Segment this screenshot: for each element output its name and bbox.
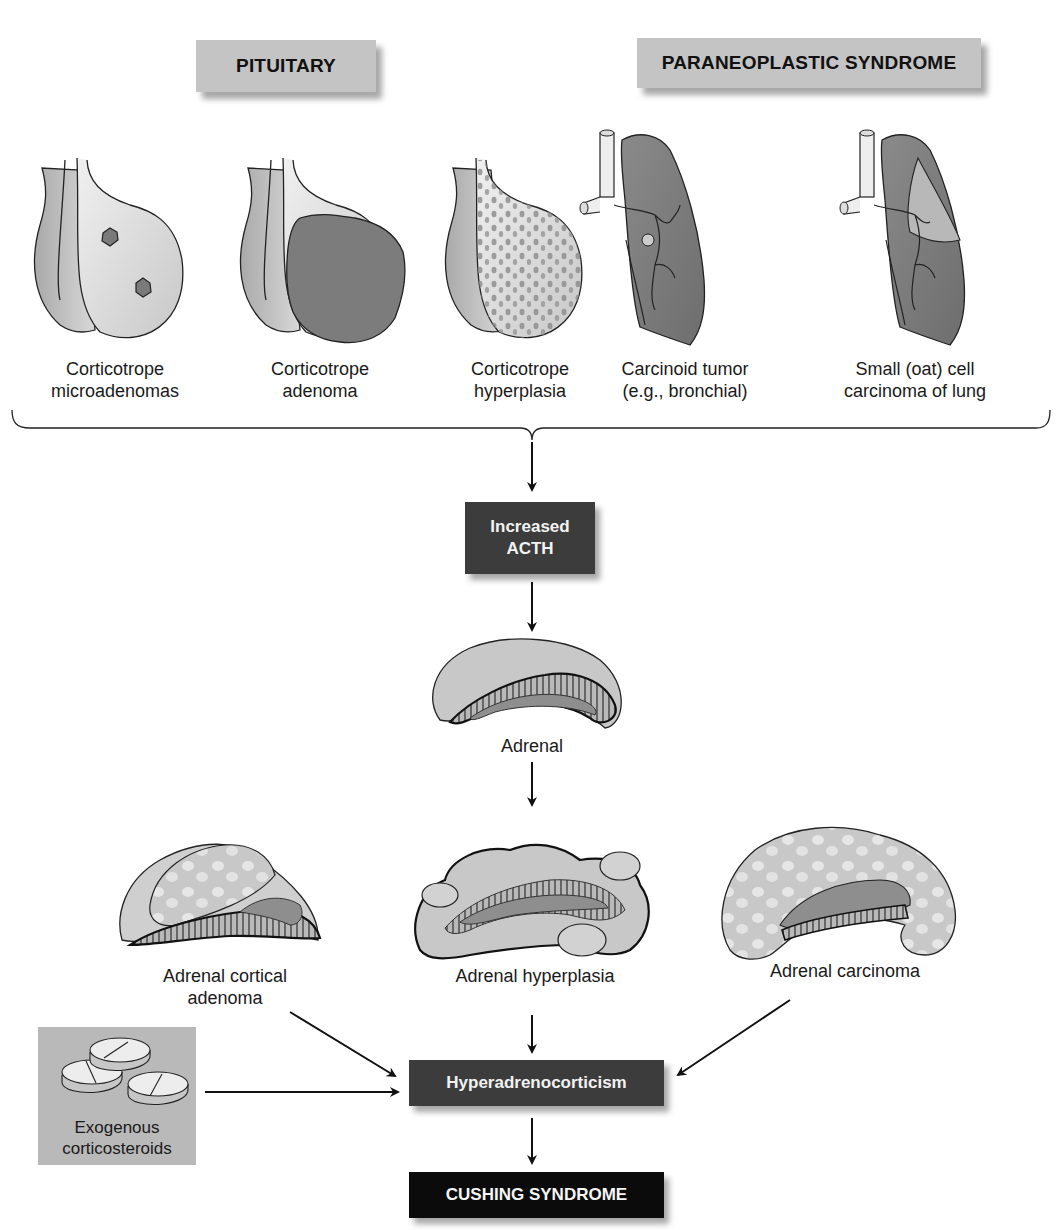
pathology-label-line1: Adrenal cortical	[110, 965, 340, 987]
exogenous-line2: corticosteroids	[38, 1138, 196, 1159]
diagram-illustrations	[0, 0, 1059, 1230]
adrenal-label: Adrenal	[432, 735, 632, 757]
cause-label-adenoma: Corticotrope adenoma	[215, 358, 425, 402]
pathology-label-line1: Adrenal hyperplasia	[420, 965, 650, 987]
adrenal-cortical-adenoma-illustration	[120, 844, 320, 945]
pill-icon	[90, 1038, 150, 1071]
cause-label-line1: Corticotrope	[10, 358, 220, 380]
exogenous-line1: Exogenous	[38, 1117, 196, 1138]
cause-label-line2: carcinoma of lung	[805, 380, 1025, 402]
grouping-brace	[12, 410, 1050, 440]
pituitary-hyperplasia-illustration	[446, 158, 582, 338]
acth-box-line2: ACTH	[506, 538, 553, 560]
cause-label-line2: adenoma	[215, 380, 425, 402]
pathology-label-line1: Adrenal carcinoma	[730, 960, 960, 982]
increased-acth-box: Increased ACTH	[465, 502, 595, 574]
adrenal-hyperplasia-illustration	[415, 845, 648, 958]
adrenal-carcinoma-label: Adrenal carcinoma	[730, 960, 960, 982]
cushing-syndrome-label: CUSHING SYNDROME	[446, 1185, 627, 1205]
cause-label-line1: Small (oat) cell	[805, 358, 1025, 380]
acth-box-line1: Increased	[490, 516, 569, 538]
adrenal-normal-illustration	[433, 639, 622, 728]
adrenal-carcinoma-illustration	[722, 827, 955, 959]
pathology-label-line2: adenoma	[110, 987, 340, 1009]
cause-label-microadenomas: Corticotrope microadenomas	[10, 358, 220, 402]
lung-carcinoid-illustration	[580, 130, 704, 345]
cause-label-carcinoid: Carcinoid tumor (e.g., bronchial)	[580, 358, 790, 402]
adrenal-cortical-adenoma-label: Adrenal cortical adenoma	[110, 965, 340, 1009]
cause-label-small-cell: Small (oat) cell carcinoma of lung	[805, 358, 1025, 402]
adrenal-hyperplasia-label: Adrenal hyperplasia	[420, 965, 650, 987]
cause-label-line2: (e.g., bronchial)	[580, 380, 790, 402]
hyperadrenocorticism-label: Hyperadrenocorticism	[446, 1073, 626, 1093]
cushing-syndrome-box: CUSHING SYNDROME	[409, 1172, 664, 1218]
cause-label-line1: Corticotrope	[215, 358, 425, 380]
lung-small-cell-illustration	[840, 130, 964, 345]
exogenous-corticosteroids-label: Exogenous corticosteroids	[38, 1117, 196, 1159]
pituitary-microadenomas-illustration	[35, 158, 183, 338]
cause-label-line2: microadenomas	[10, 380, 220, 402]
hyperadrenocorticism-box: Hyperadrenocorticism	[409, 1060, 664, 1106]
pill-icon	[128, 1072, 188, 1105]
pituitary-adenoma-illustration	[241, 158, 405, 343]
cause-label-line1: Carcinoid tumor	[580, 358, 790, 380]
